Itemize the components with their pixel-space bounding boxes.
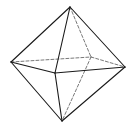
- hidden-edge-back-bottom: [62, 57, 91, 121]
- edge-front-right: [55, 67, 125, 73]
- edge-left-front: [11, 62, 55, 73]
- hidden-edge-left-back: [11, 57, 91, 62]
- octahedron-drawing: [0, 0, 135, 135]
- edge-top-left: [11, 7, 70, 62]
- hidden-edges: [11, 7, 125, 121]
- edge-left-bottom: [11, 62, 62, 121]
- edge-right-bottom: [62, 67, 125, 121]
- hidden-edge-top-back: [70, 7, 91, 57]
- octahedron-diagram: [0, 0, 135, 135]
- visible-edges: [11, 7, 125, 121]
- edge-top-front: [55, 7, 70, 73]
